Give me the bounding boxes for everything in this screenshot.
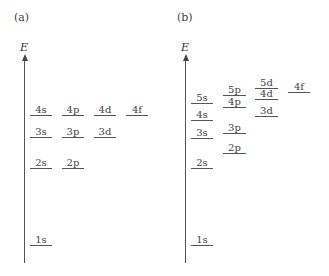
orbital-label: 4d [255, 89, 278, 99]
orbital-label: 3s [191, 128, 213, 138]
orbital-level-3s: 3s [30, 137, 52, 138]
orbital-label: 2s [191, 158, 213, 168]
orbital-label: 1s [191, 235, 213, 245]
orbital-level-2p: 2p [223, 153, 246, 154]
orbital-level-1s: 1s [191, 245, 213, 246]
orbital-level-4s: 4s [30, 115, 52, 116]
orbital-label: 3s [30, 127, 52, 137]
orbital-level-4s: 4s [191, 120, 213, 121]
arrow-up-icon [183, 54, 189, 61]
panel-label: (a) [14, 11, 29, 24]
orbital-label: 3p [62, 127, 84, 137]
orbital-label: 4f [126, 105, 148, 115]
orbital-level-4f: 4f [126, 115, 148, 116]
panel-label: (b) [177, 11, 193, 24]
orbital-label: 4d [94, 105, 116, 115]
energy-axis [24, 58, 25, 263]
orbital-level-5p: 5p [223, 95, 246, 96]
orbital-label: 1s [30, 235, 52, 245]
orbital-level-5d: 5d [255, 88, 278, 89]
orbital-label: 4p [62, 105, 84, 115]
orbital-level-3s: 3s [191, 138, 213, 139]
orbital-label: 2p [62, 158, 84, 168]
orbital-level-4p: 4p [223, 107, 246, 108]
arrow-up-icon [22, 54, 28, 61]
orbital-label: 4s [30, 105, 52, 115]
orbital-level-2s: 2s [30, 168, 52, 169]
orbital-label: 4f [288, 82, 310, 92]
orbital-level-3d: 3d [255, 116, 278, 117]
orbital-label: 4s [191, 110, 213, 120]
orbital-label: 2s [30, 158, 52, 168]
orbital-level-4f: 4f [288, 92, 310, 93]
energy-level-diagram: (a)E1s2s2p3s3p3d4s4p4d4f(b)E1s2s3s4s5s2p… [0, 0, 329, 276]
orbital-label: 5p [223, 85, 246, 95]
orbital-label: 5d [255, 78, 278, 88]
orbital-label: 3d [255, 106, 278, 116]
orbital-level-4d: 4d [255, 99, 278, 100]
orbital-level-3p: 3p [223, 133, 246, 134]
orbital-level-5s: 5s [191, 103, 213, 104]
orbital-level-1s: 1s [30, 245, 52, 246]
orbital-level-2p: 2p [62, 168, 84, 169]
energy-axis-label: E [181, 41, 189, 54]
orbital-label: 4p [223, 97, 246, 107]
energy-axis-label: E [20, 41, 28, 54]
orbital-level-4p: 4p [62, 115, 84, 116]
orbital-level-3p: 3p [62, 137, 84, 138]
orbital-level-3d: 3d [94, 137, 116, 138]
orbital-level-2s: 2s [191, 168, 213, 169]
orbital-label: 3p [223, 123, 246, 133]
energy-axis [185, 58, 186, 263]
orbital-level-4d: 4d [94, 115, 116, 116]
orbital-label: 3d [94, 127, 116, 137]
orbital-label: 2p [223, 143, 246, 153]
orbital-label: 5s [191, 93, 213, 103]
